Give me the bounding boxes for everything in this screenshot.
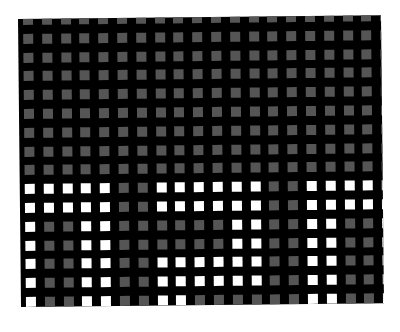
white-square [251,238,261,248]
gray-square [249,69,259,79]
gray-square [99,89,109,99]
gray-square [61,15,71,24]
white-square [62,184,72,194]
gray-square [193,126,203,136]
gray-square [382,143,384,153]
gray-square [251,294,261,304]
square-grid-board [18,15,384,307]
white-square [81,202,91,212]
white-square [101,296,111,306]
gray-square [155,70,165,80]
gray-square [24,146,34,156]
gray-square [156,145,166,155]
white-square [176,258,186,268]
gray-square [381,105,384,115]
gray-square [211,50,221,60]
gray-square [249,50,259,60]
gray-square [345,256,355,266]
gray-square [61,33,71,43]
gray-square [249,31,259,41]
gray-square [213,163,223,173]
gray-square [363,143,373,153]
gray-square [193,107,203,117]
white-square [44,184,54,194]
white-square [194,201,204,211]
gray-square [306,143,316,153]
white-square [383,274,384,284]
white-square [25,184,35,194]
gray-square [306,106,316,116]
gray-square [288,238,298,248]
gray-square [117,33,127,43]
gray-square [138,258,148,268]
gray-square [119,164,129,174]
gray-square [212,126,222,136]
white-square [82,240,92,250]
white-square [344,181,354,191]
gray-square [99,108,109,118]
gray-square [286,15,296,22]
gray-square [194,220,204,230]
gray-square [61,90,71,100]
gray-square [231,163,241,173]
gray-square [137,145,147,155]
gray-square [362,68,372,78]
white-square [232,219,242,229]
gray-square [324,68,334,78]
gray-square [43,146,53,156]
white-square [44,203,54,213]
gray-square [364,293,374,303]
gray-square [306,125,316,135]
white-square [363,199,373,209]
gray-square [194,239,204,249]
gray-square [381,124,384,134]
gray-square [362,30,372,40]
gray-square [118,127,128,137]
gray-square [231,88,241,98]
gray-square [138,239,148,249]
gray-square [324,30,334,40]
gray-square [81,165,91,175]
white-square [213,201,223,211]
gray-square [364,237,374,247]
gray-square [42,15,52,25]
white-square [175,182,185,192]
white-square [195,257,205,267]
white-square [26,259,36,269]
gray-square [289,294,299,304]
gray-square [269,125,279,135]
white-square [308,275,318,285]
white-square [101,240,111,250]
gray-square [381,49,384,59]
gray-square [381,67,384,77]
gray-square [98,15,108,24]
gray-square [267,15,277,22]
gray-square [174,32,184,42]
gray-square [43,127,53,137]
gray-square [287,50,297,60]
gray-square [156,164,166,174]
gray-square [324,15,334,22]
gray-square [155,32,165,42]
gray-square [212,69,222,79]
gray-square [119,183,129,193]
white-square [156,183,166,193]
gray-square [268,106,278,116]
gray-square [343,87,353,97]
gray-square [155,15,165,23]
gray-square [325,143,335,153]
gray-square [287,87,297,97]
gray-square [100,146,110,156]
gray-square [230,69,240,79]
white-square [345,199,355,209]
white-square [326,200,336,210]
gray-square [23,34,33,44]
gray-square [362,86,372,96]
gray-square [136,15,146,24]
gray-square [192,15,202,23]
gray-square [212,107,222,117]
white-square [214,276,224,286]
white-square [307,181,317,191]
white-square [25,240,35,250]
gray-square [117,51,127,61]
